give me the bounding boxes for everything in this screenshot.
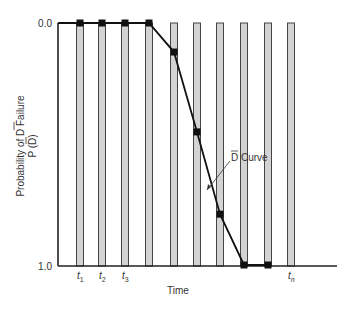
time-bars (77, 23, 295, 266)
y-tick-1: 1.0 (38, 261, 52, 272)
data-point-marker (241, 262, 248, 269)
y-tick-0: 0.0 (38, 18, 52, 29)
data-point-marker (265, 262, 272, 269)
data-point-marker (171, 49, 178, 56)
time-bar (241, 23, 248, 266)
time-bar (217, 23, 224, 266)
chart-svg: 0.0 1.0 Probability of D Failure P (D) t… (0, 0, 354, 311)
data-point-marker (99, 20, 106, 27)
time-bar (77, 23, 84, 266)
time-bar (265, 23, 272, 266)
time-bar (288, 23, 295, 266)
time-bar (122, 23, 129, 266)
data-point-marker (77, 20, 84, 27)
d-curve-annotation: D Curve (231, 152, 268, 163)
time-bar (194, 23, 201, 266)
time-bar (99, 23, 106, 266)
data-point-marker (217, 211, 224, 218)
y-axis-label: Probability of D Failure P (D) (15, 95, 38, 197)
d-curve-line (58, 23, 268, 265)
data-point-marker (146, 20, 153, 27)
x-tick-label: tn (288, 270, 295, 283)
x-tick-label: t2 (99, 270, 106, 283)
y-axis-label-line1: Probability of D Failure (15, 95, 26, 197)
data-point-marker (122, 20, 129, 27)
arrowhead-icon (207, 184, 211, 190)
time-bar (146, 23, 153, 266)
x-axis-label: Time (167, 285, 189, 296)
x-tick-label: t1 (77, 270, 84, 283)
x-tick-label: t3 (122, 270, 129, 283)
data-point-marker (194, 128, 201, 135)
y-axis-label-line2: P (D) (27, 134, 38, 157)
x-tick-labels: t1t2t3tn (77, 270, 295, 283)
